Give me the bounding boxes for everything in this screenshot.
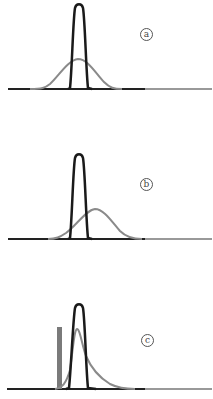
panel-label-c: c xyxy=(141,334,154,347)
black-pulse-curve xyxy=(68,154,92,239)
panel-label-b: b xyxy=(140,178,153,191)
panel-label-a: a xyxy=(140,28,153,41)
panel-c xyxy=(7,304,212,389)
gray-gaussian-curve xyxy=(30,59,122,89)
black-pulse-curve xyxy=(66,304,96,389)
black-pulse-curve xyxy=(68,4,92,89)
gray-gaussian-shifted-curve xyxy=(48,209,142,239)
panel-a xyxy=(8,4,212,89)
gray-impulse-bar xyxy=(57,327,62,389)
diagram-canvas xyxy=(0,0,213,399)
gray-skewed-curve xyxy=(55,329,135,389)
panel-b xyxy=(8,154,212,239)
